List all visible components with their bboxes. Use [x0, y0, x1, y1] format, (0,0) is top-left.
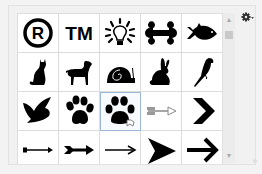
line-arrow-icon	[103, 134, 137, 164]
scroll-thumb[interactable]	[225, 31, 233, 39]
scroll-up-arrow[interactable]: ▲	[223, 16, 235, 24]
fletched-arrow-icon	[62, 134, 96, 164]
shape-grid: R TM	[17, 13, 223, 164]
shape-arrow-feathered[interactable]	[141, 92, 182, 131]
shape-chevron-right[interactable]	[182, 92, 223, 131]
shape-arrow-head[interactable]	[141, 131, 182, 164]
shape-arrow-thin[interactable]	[18, 131, 59, 164]
trademark-icon: TM	[62, 17, 96, 49]
shape-bird-flying[interactable]	[18, 92, 59, 131]
shape-snail[interactable]	[100, 53, 141, 92]
fish-icon	[185, 17, 219, 49]
svg-text:TM: TM	[65, 23, 92, 44]
arrowhead-icon	[144, 134, 178, 164]
paw-print-2-icon	[103, 95, 137, 127]
shape-cat[interactable]	[18, 53, 59, 92]
shape-dog[interactable]	[59, 53, 100, 92]
gear-icon[interactable]	[241, 12, 255, 22]
thin-arrow-icon	[21, 134, 55, 164]
shape-arrow-bold[interactable]	[182, 131, 223, 164]
shape-arrow-fletched[interactable]	[59, 131, 100, 164]
shape-bird-parrot[interactable]	[182, 53, 223, 92]
shape-fish[interactable]	[182, 14, 223, 53]
flying-bird-icon	[21, 95, 55, 127]
cat-icon	[21, 56, 55, 88]
bone-icon	[144, 17, 178, 49]
shape-paw-print[interactable]	[59, 92, 100, 131]
parrot-icon	[185, 56, 219, 88]
shape-bone[interactable]	[141, 14, 182, 53]
shape-arrow-line[interactable]	[100, 131, 141, 164]
shape-trademark[interactable]: TM	[59, 14, 100, 53]
hand-cursor-icon	[127, 120, 134, 126]
shape-rabbit[interactable]	[141, 53, 182, 92]
registered-trademark-icon: R	[21, 17, 55, 49]
svg-text:R: R	[32, 24, 44, 43]
shape-lightbulb[interactable]	[100, 14, 141, 53]
feathered-arrow-icon	[144, 95, 178, 127]
chevron-right-icon	[185, 95, 219, 127]
dog-icon	[62, 56, 96, 88]
lightbulb-icon	[103, 17, 137, 49]
scroll-down-arrow[interactable]: ▼	[223, 152, 235, 160]
vertical-scrollbar[interactable]: ▲ ▼	[222, 13, 235, 163]
resize-grip-icon[interactable]	[252, 158, 258, 164]
snail-icon	[103, 56, 137, 88]
paw-print-icon	[62, 95, 96, 127]
shape-registered-trademark[interactable]: R	[18, 14, 59, 53]
bold-arrow-icon	[185, 134, 219, 164]
shape-paw-print-2[interactable]	[100, 92, 141, 131]
rabbit-icon	[144, 56, 178, 88]
